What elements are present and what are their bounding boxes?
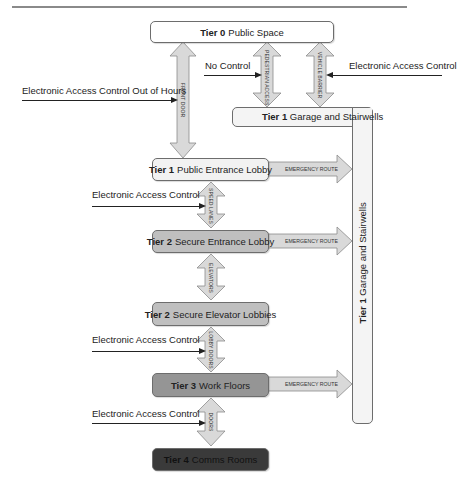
emergency-route-label-2: EMERGENCY ROUTE xyxy=(285,238,338,244)
control-arrowhead-lobby-doors xyxy=(199,348,206,354)
control-label-speed-lanes: Electronic Access Control xyxy=(92,189,200,200)
control-line-doors xyxy=(92,423,200,424)
lobby-doors-label: LOBBY DOORS xyxy=(208,330,214,370)
vehicle-barrier-label: VEHICLE BARRIER xyxy=(317,50,323,100)
emergency-route-label-1: EMERGENCY ROUTE xyxy=(285,166,338,172)
tier0-public-space: Tier 0Public Space xyxy=(150,21,334,43)
control-line-speed-lanes xyxy=(92,206,200,207)
elevators-label: ELEVATORS xyxy=(208,258,214,298)
control-line-lobby-doors xyxy=(92,351,200,352)
control-arrowhead-out-of-hours xyxy=(171,97,178,103)
control-arrowhead-no-control xyxy=(255,72,262,78)
tier3-work-floors: Tier 3Work Floors xyxy=(152,373,269,397)
tier1-public-entrance-lobby: Tier 1Public Entrance Lobby xyxy=(152,158,269,181)
control-line-no-control xyxy=(204,75,256,76)
control-label-out-of-hours: Electronic Access Control Out of Hours xyxy=(22,85,186,96)
tier1-garage-vertical-title: Tier 1 Garage and Stairwells xyxy=(357,204,368,324)
control-line-out-of-hours xyxy=(22,100,172,101)
control-label-no-control: No Control xyxy=(205,60,250,71)
tier2-secure-elevator-lobbies: Tier 2Secure Elevator Lobbies xyxy=(152,302,269,326)
tier2-secure-entrance-lobby: Tier 2Secure Entrance Lobby xyxy=(152,230,269,253)
pedestrian-access-label: PEDESTRIAN ACCESS xyxy=(264,50,270,100)
control-label-lobby-doors: Electronic Access Control xyxy=(92,334,200,345)
control-label-vehicle-eac: Electronic Access Control xyxy=(349,60,457,71)
tier1-garage-title: Tier 1 Garage and Stairwells xyxy=(262,111,383,122)
emergency-route-label-3: EMERGENCY ROUTE xyxy=(285,381,338,387)
control-line-vehicle-eac xyxy=(333,75,442,76)
control-arrowhead-speed-lanes xyxy=(199,203,206,209)
control-arrowhead-doors xyxy=(199,420,206,426)
tier4-comms-rooms: Tier 4Comms Rooms xyxy=(152,448,269,471)
speed-lanes-label: SPEED LANES xyxy=(208,186,214,226)
doors-label: DOORS xyxy=(208,402,214,442)
front-door-label: FRONT DOOR xyxy=(180,75,186,125)
control-arrowhead-vehicle-eac xyxy=(326,72,333,78)
control-label-doors: Electronic Access Control xyxy=(92,408,200,419)
